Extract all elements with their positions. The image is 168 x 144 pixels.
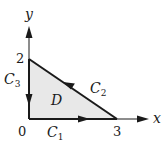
- curve-c2-label: C2: [90, 80, 106, 98]
- x-axis-arrow-icon: [137, 116, 149, 123]
- triangle-region-diagram: y x 2 0 3 D C1 C2 C3: [0, 0, 168, 144]
- x-axis-label: x: [153, 110, 161, 126]
- curve-c3-label: C3: [4, 71, 21, 89]
- y-axis-label: y: [24, 6, 34, 22]
- diagram-canvas: y x 2 0 3 D C1 C2 C3: [0, 0, 168, 144]
- region-d-label: D: [50, 92, 62, 108]
- origin-label: 0: [18, 124, 26, 139]
- curve-c1-label: C1: [47, 124, 63, 142]
- x-tick-label-3: 3: [113, 124, 121, 139]
- y-tick-label-2: 2: [16, 51, 24, 66]
- y-axis-arrow-icon: [26, 26, 33, 38]
